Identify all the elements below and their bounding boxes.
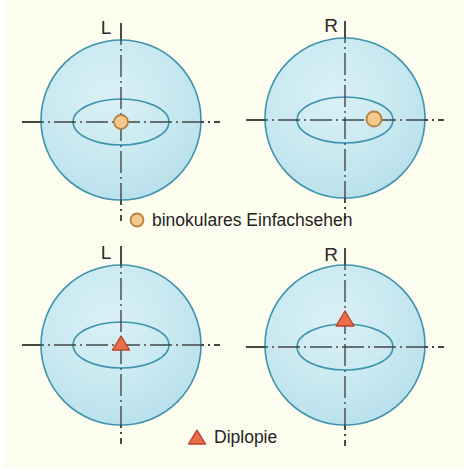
vision-field-diagram: L R binokulares Einfachsehen bbox=[0, 0, 464, 472]
circle-marker-right-top bbox=[367, 112, 382, 127]
eye-right-bottom: R bbox=[246, 244, 444, 446]
eye-label-left-bottom: L bbox=[101, 242, 112, 263]
eye-left-top: L bbox=[22, 17, 220, 221]
eye-label-left-top: L bbox=[101, 17, 112, 38]
triangle-marker-icon bbox=[189, 430, 206, 444]
circle-marker-left-top bbox=[114, 115, 128, 129]
left-edge-margin bbox=[0, 0, 3, 472]
eye-label-right-top: R bbox=[324, 15, 338, 36]
binocular-vision-figure: L R binokulares Einfachsehen bbox=[0, 0, 464, 472]
eye-left-bottom: L bbox=[22, 242, 220, 444]
legend-diplopia: Diplopie bbox=[189, 427, 278, 447]
eye-label-right-bottom: R bbox=[324, 244, 338, 265]
legend-binocular-single-vision: binokulares Einfachsehen bbox=[131, 210, 353, 230]
legend-label-binocular: binokulares Einfachsehen bbox=[152, 210, 352, 230]
eye-right-top: R bbox=[246, 15, 444, 219]
circle-marker-icon bbox=[131, 214, 144, 227]
legend-label-diplopia: Diplopie bbox=[214, 427, 277, 447]
